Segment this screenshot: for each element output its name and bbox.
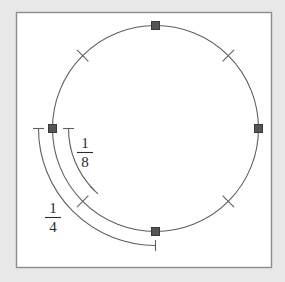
one-eighth-denominator: 8 [81, 154, 89, 170]
figure-root: 1 8 1 4 [0, 0, 285, 282]
one-quarter-numerator: 1 [49, 200, 57, 216]
circle-fractions-figure: 1 8 1 4 [0, 0, 285, 282]
point-marker-right [255, 125, 263, 133]
point-marker-left [49, 125, 57, 133]
one-eighth-numerator: 1 [81, 135, 89, 151]
point-marker-top [152, 22, 160, 30]
point-marker-bottom [152, 228, 160, 236]
one-quarter-denominator: 4 [49, 219, 57, 235]
